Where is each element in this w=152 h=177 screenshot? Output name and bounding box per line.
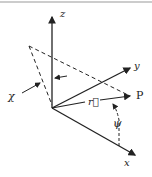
x-axis	[52, 108, 135, 155]
r-vector-tip	[100, 96, 130, 100]
chi-label: χ	[8, 90, 15, 103]
x-axis-label: x	[124, 157, 130, 168]
r-vector-label: r⃗	[88, 96, 99, 107]
y-axis-label: y	[134, 60, 140, 71]
coordinate-diagram	[0, 0, 152, 177]
dashed-plane-top	[29, 46, 128, 95]
chi-arrow	[22, 83, 40, 93]
z-axis-label: z	[60, 8, 65, 19]
point-P-label: P	[136, 89, 143, 102]
psi-label: ψ	[113, 117, 122, 130]
plane-rotation-arrow	[55, 76, 67, 78]
dashed-plane-side	[29, 46, 52, 105]
